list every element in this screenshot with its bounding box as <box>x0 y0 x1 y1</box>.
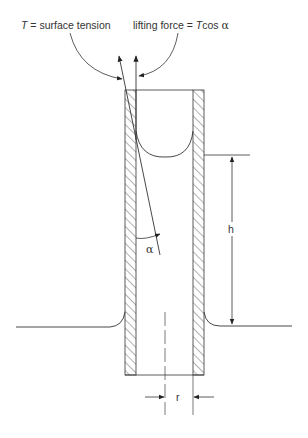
capillary-diagram: h r α T = surface tension lifting force … <box>0 0 308 438</box>
lifting-callout-arrow <box>139 33 178 76</box>
tension-label: T = surface tension <box>21 19 111 31</box>
lifting-force-label: lifting force = Tcos α <box>133 19 229 32</box>
height-dimension: h <box>228 157 234 324</box>
height-label: h <box>228 223 234 235</box>
meniscus <box>136 131 193 157</box>
radius-dimension: r <box>145 391 214 403</box>
water-surface-left <box>16 312 125 327</box>
tension-callout-arrow <box>70 33 122 79</box>
tube-left-wall <box>125 90 136 375</box>
radius-label: r <box>176 391 180 403</box>
tube <box>125 90 204 375</box>
water-surface-right <box>204 312 292 326</box>
angle-label: α <box>146 243 154 256</box>
tube-right-wall <box>193 90 204 375</box>
